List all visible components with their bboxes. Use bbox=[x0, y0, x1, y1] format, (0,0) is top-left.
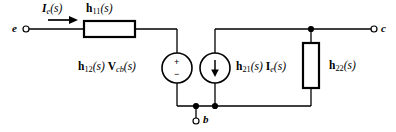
element-label-h21-ie: h21(s) Ie(s) bbox=[236, 61, 286, 75]
element-label-h12-sub: 12 bbox=[84, 65, 92, 74]
element-label-h12-vcb: h12(s) Vcb(s) bbox=[78, 61, 136, 75]
element-label-h22-arg: (s) bbox=[344, 59, 356, 71]
terminal-label-e: e bbox=[12, 23, 17, 34]
terminal-b-node bbox=[193, 118, 199, 124]
resistor-h11-body bbox=[84, 21, 135, 37]
resistor-h22-body bbox=[303, 43, 319, 88]
current-label-ie: Ie(s) bbox=[42, 3, 62, 17]
current-arrow-ie-head bbox=[69, 16, 78, 24]
element-label-h12-arg: (s) bbox=[93, 60, 105, 72]
element-label-h11-arg: (s) bbox=[100, 2, 112, 14]
element-label-vcb-arg: (s) bbox=[124, 60, 136, 72]
element-label-ie-arg2: (s) bbox=[274, 60, 286, 72]
element-label-h11: h11(s) bbox=[86, 3, 113, 17]
terminal-e-node bbox=[23, 26, 29, 32]
plus-sign-icon: + bbox=[174, 58, 179, 67]
circuit-diagram: Ie(s) h11(s) h12(s) Vcb(s) + − h21(s) Ie… bbox=[0, 0, 396, 132]
element-label-h22-sub: 22 bbox=[335, 64, 343, 73]
element-label-h22: h22(s) bbox=[329, 60, 356, 74]
minus-sign-icon: − bbox=[174, 70, 179, 79]
terminal-label-b: b bbox=[203, 114, 209, 125]
element-label-vcb-sub: cb bbox=[116, 65, 124, 74]
element-label-h21-arg: (s) bbox=[251, 60, 263, 72]
current-label-ie-arg: (s) bbox=[50, 2, 62, 14]
element-label-h21-sub: 21 bbox=[242, 65, 250, 74]
terminal-label-c: c bbox=[381, 23, 386, 34]
junction-dot-b bbox=[193, 103, 199, 109]
terminal-c-node bbox=[371, 26, 377, 32]
element-label-vcb-base: V bbox=[108, 60, 116, 72]
